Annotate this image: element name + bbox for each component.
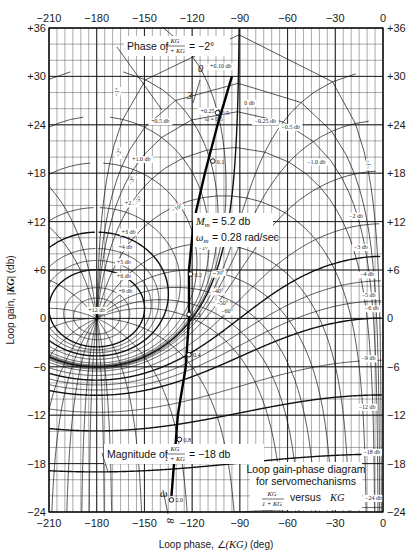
svg-text:for servomechanisms: for servomechanisms <box>256 475 356 487</box>
x-tick-bottom: −180 <box>84 517 109 529</box>
resonance-annotation: Mm = 5.2 db ωm = 0.28 rad/sec <box>193 213 279 247</box>
svg-text:= −2°: = −2° <box>189 40 214 52</box>
x-tick-bottom: −60 <box>278 517 297 529</box>
omega-zero-label: 0 <box>198 63 204 74</box>
y-tick-left: +12 <box>27 216 46 228</box>
x-tick-bottom: 0 <box>380 517 386 529</box>
x-tick-bottom: −30 <box>326 517 345 529</box>
contour-label: −0.25 db <box>255 118 276 124</box>
frequency-marker <box>211 159 216 164</box>
y-tick-left: −12 <box>27 409 46 421</box>
frequency-marker-label: 0.3 <box>193 312 201 318</box>
frequency-marker-label: 0.8 <box>183 437 191 443</box>
y-tick-right: −18 <box>387 458 406 470</box>
y-tick-left: +18 <box>27 167 46 179</box>
contour-label: −0.5 db <box>282 124 300 130</box>
x-tick-top: −180 <box>84 12 109 24</box>
y-tick-right: 0 <box>387 312 393 324</box>
contour-label: −2 db <box>349 213 363 219</box>
x-tick-bottom: −90 <box>231 517 250 529</box>
contour-label: +9 db <box>118 288 132 294</box>
y-tick-left: 0 <box>40 312 46 324</box>
x-tick-top: 0 <box>380 12 386 24</box>
svg-text:KG: KG <box>329 492 345 503</box>
frequency-marker <box>215 110 220 115</box>
svg-text:= −18 db: = −18 db <box>189 448 231 460</box>
contour-label: +0.10 db <box>210 63 231 69</box>
contour-label: −50° <box>216 300 228 306</box>
contour-label: −18 db <box>363 449 380 455</box>
y-tick-left: −18 <box>27 458 46 470</box>
contour-label: −3 db <box>354 244 368 250</box>
y-tick-left: +30 <box>27 70 46 82</box>
y-tick-left: +36 <box>27 22 46 34</box>
frequency-marker <box>177 437 182 442</box>
frequency-marker-label: 0.1 <box>217 159 225 165</box>
y-tick-left: −24 <box>27 506 46 518</box>
contour-label: +4 db <box>118 244 132 250</box>
x-tick-bottom: −120 <box>180 517 205 529</box>
x-tick-top: −120 <box>180 12 205 24</box>
nichols-chart: +12 db+9 db+6 db+5 db+4 db+3 db+2 db+1.0… <box>0 0 420 558</box>
contour-label: +0.5 db <box>151 118 169 124</box>
omega-half-label: ω = 0.5 <box>205 116 223 122</box>
y-tick-left: −6 <box>33 361 46 373</box>
x-tick-top: −90 <box>231 12 250 24</box>
frequency-marker-label: 2.0 <box>175 497 183 503</box>
svg-text:1 + KG: 1 + KG <box>165 455 185 462</box>
x-axis-label: Loop phase, ∠(KG) (deg) <box>159 539 274 551</box>
y-tick-left: +6 <box>33 264 46 276</box>
y-tick-right: +24 <box>387 119 406 131</box>
contour-label: −4 db <box>360 271 374 277</box>
y-tick-right: −6 <box>387 361 400 373</box>
svg-text:1 + KG: 1 + KG <box>165 47 185 54</box>
svg-text:versus: versus <box>290 491 321 503</box>
contour-label: −6 db <box>365 305 379 311</box>
contour-label: +3 db <box>122 229 136 235</box>
svg-text:KG: KG <box>266 490 276 497</box>
svg-text:KG: KG <box>169 37 179 44</box>
svg-text:Phase of: Phase of <box>127 40 169 52</box>
svg-text:= 0.28 rad/sec: = 0.28 rad/sec <box>212 231 279 243</box>
contour-label: −12 db <box>359 404 376 410</box>
omega-infinity-label: 8 <box>165 518 176 524</box>
y-tick-right: −24 <box>387 506 406 518</box>
x-tick-top: −30 <box>326 12 345 24</box>
svg-text:1 + KG: 1 + KG <box>262 500 282 507</box>
frequency-marker <box>187 312 192 317</box>
y-tick-right: +6 <box>387 264 400 276</box>
y-axis-label: Loop gain, |KG| (db) <box>5 255 16 344</box>
contour-label: 0 db <box>244 100 255 106</box>
contour-label: −40° <box>212 288 224 294</box>
contour-label: +6 db <box>117 273 131 279</box>
contour-label: −60° <box>221 308 233 314</box>
title-box: Loop gain-phase diagram for servomechani… <box>246 462 365 510</box>
y-tick-left: +24 <box>27 119 46 131</box>
contour-label: −1.0 db <box>307 159 325 165</box>
y-tick-right: +18 <box>387 167 406 179</box>
contour-label: +1.0 db <box>132 156 150 162</box>
frequency-marker-label: 0.2 <box>195 272 203 278</box>
x-tick-top: −60 <box>278 12 297 24</box>
svg-text:Loop gain-phase diagram: Loop gain-phase diagram <box>246 463 365 475</box>
y-tick-right: −12 <box>387 409 406 421</box>
svg-text:Loop gain, |KG|: Loop gain, |KG| (db) <box>5 255 16 344</box>
x-tick-bottom: −210 <box>37 517 62 529</box>
x-tick-bottom: −150 <box>132 517 157 529</box>
y-tick-right: +30 <box>387 70 406 82</box>
y-tick-right: +36 <box>387 22 406 34</box>
y-tick-right: +12 <box>387 216 406 228</box>
svg-text:KG: KG <box>169 445 179 452</box>
contour-label: +5 db <box>117 259 131 265</box>
contour-label: +12 db <box>88 307 105 313</box>
svg-text:= 5.2 db: = 5.2 db <box>212 215 250 227</box>
contour-label: −24 db <box>365 495 382 501</box>
frequency-marker <box>169 498 174 503</box>
omega-three-label: 3 <box>186 90 192 101</box>
contour-label: −9 db <box>362 355 376 361</box>
omega-bottom-label: ω <box>160 488 167 499</box>
frequency-marker <box>188 272 193 277</box>
svg-text:Magnitude of: Magnitude of <box>107 448 168 460</box>
x-tick-top: −150 <box>132 12 157 24</box>
frequency-marker-label: 0.4 <box>193 352 201 358</box>
